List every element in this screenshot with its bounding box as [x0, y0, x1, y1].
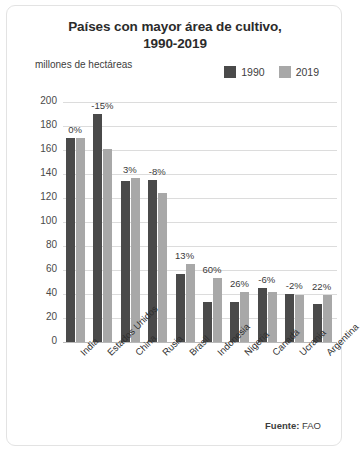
bar-group: 22% — [310, 102, 337, 342]
y-axis-tick-label: 80 — [17, 239, 57, 250]
bar-change-label: -15% — [91, 100, 113, 111]
bar-group: 60% — [200, 102, 227, 342]
source-value: FAO — [302, 420, 321, 431]
bar-2019 — [158, 193, 167, 342]
y-axis-tick-label: 100 — [17, 215, 57, 226]
y-axis-tick-label: 140 — [17, 167, 57, 178]
bar-2019 — [213, 278, 222, 342]
legend-item-2019: 2019 — [279, 66, 319, 78]
bar-change-label: -8% — [149, 166, 166, 177]
legend-label-1990: 1990 — [241, 66, 264, 78]
bar-1990 — [66, 138, 75, 342]
bar-2019 — [76, 138, 85, 342]
plot-area: 200180160140120100806040200 0%-15%3%-8%1… — [17, 102, 337, 362]
bars-container: 0%-15%3%-8%13%60%26%-6%-2%22% — [63, 102, 337, 342]
bar-change-label: 26% — [230, 278, 249, 289]
bar-group: 13% — [173, 102, 200, 342]
bar-group: -15% — [90, 102, 117, 342]
bar-change-label: 0% — [68, 124, 82, 135]
chart-title-line-1: Países con mayor área de cultivo, — [21, 18, 329, 35]
y-axis-tick-label: 120 — [17, 191, 57, 202]
source-label: Fuente: — [265, 420, 299, 431]
bar-change-label: -2% — [286, 280, 303, 291]
bar-group: 3% — [118, 102, 145, 342]
bar-change-label: 13% — [175, 250, 194, 261]
bar-change-label: -6% — [258, 274, 275, 285]
chart-legend: 19902019 — [224, 66, 319, 78]
bar-1990 — [93, 114, 102, 342]
legend-swatch-2019 — [279, 66, 291, 78]
legend-item-1990: 1990 — [224, 66, 264, 78]
bar-change-label: 22% — [312, 281, 331, 292]
bar-1990 — [121, 181, 130, 342]
legend-label-2019: 2019 — [296, 66, 319, 78]
y-axis-tick-label: 0 — [17, 335, 57, 346]
source-credit: Fuente: FAO — [265, 420, 321, 431]
bar-group: -2% — [282, 102, 309, 342]
y-axis-tick-label: 40 — [17, 287, 57, 298]
bar-change-label: 60% — [202, 264, 221, 275]
chart-title-line-2: 1990-2019 — [21, 35, 329, 52]
y-axis-tick-label: 160 — [17, 143, 57, 154]
bar-change-label: 3% — [123, 164, 137, 175]
bar-group: 26% — [227, 102, 254, 342]
bar-group: -6% — [255, 102, 282, 342]
chart-card: Países con mayor área de cultivo, 1990-2… — [6, 5, 342, 446]
bar-group: 0% — [63, 102, 90, 342]
bar-2019 — [186, 264, 195, 342]
y-axis-tick-label: 180 — [17, 119, 57, 130]
y-axis-tick-label: 20 — [17, 311, 57, 322]
chart-title: Países con mayor área de cultivo, 1990-2… — [21, 18, 329, 52]
bar-2019 — [103, 149, 112, 342]
y-axis-caption: millones de hectáreas — [35, 59, 145, 72]
legend-swatch-1990 — [224, 66, 236, 78]
y-axis-tick-label: 60 — [17, 263, 57, 274]
y-axis-tick-label: 200 — [17, 95, 57, 106]
